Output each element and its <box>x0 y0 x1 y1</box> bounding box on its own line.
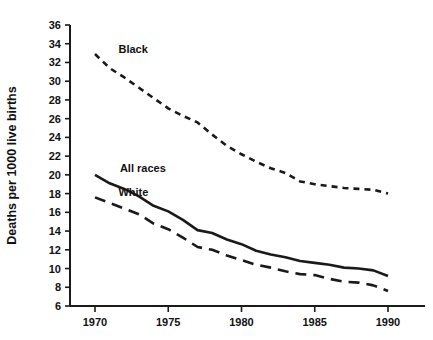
y-tick-label: 34 <box>49 38 62 50</box>
x-tick-label: 1970 <box>83 316 107 328</box>
y-tick-label: 8 <box>55 281 61 293</box>
x-tick-label: 1990 <box>376 316 400 328</box>
y-tick-label: 24 <box>49 131 62 143</box>
series-label-white: White <box>118 186 148 198</box>
x-tick-label: 1975 <box>156 316 180 328</box>
x-tick-label: 1985 <box>303 316 327 328</box>
y-tick-label: 12 <box>49 244 61 256</box>
infant-mortality-line-chart: 681012141618202224262830323436 197019751… <box>0 0 433 340</box>
series-label-black: Black <box>118 43 148 55</box>
x-axis-ticks-group: 19701975198019851990 <box>83 306 400 328</box>
y-tick-label: 30 <box>49 75 61 87</box>
y-tick-label: 20 <box>49 169 61 181</box>
y-tick-label: 14 <box>49 225 62 237</box>
series-annotations-group: BlackAll racesWhite <box>118 43 165 197</box>
y-tick-label: 18 <box>49 188 61 200</box>
y-tick-label: 26 <box>49 113 61 125</box>
series-label-all-races: All races <box>120 162 166 174</box>
y-tick-label: 6 <box>55 300 61 312</box>
y-tick-label: 16 <box>49 206 61 218</box>
y-axis-ticks-group: 681012141618202224262830323436 <box>49 19 70 312</box>
y-tick-label: 28 <box>49 94 61 106</box>
y-tick-label: 10 <box>49 263 61 275</box>
y-tick-label: 22 <box>49 150 61 162</box>
y-tick-label: 36 <box>49 19 61 31</box>
y-axis-title: Deaths per 1000 live births <box>5 86 19 244</box>
x-tick-label: 1980 <box>229 316 253 328</box>
y-tick-label: 32 <box>49 56 61 68</box>
chart-canvas: 681012141618202224262830323436 197019751… <box>0 0 433 340</box>
